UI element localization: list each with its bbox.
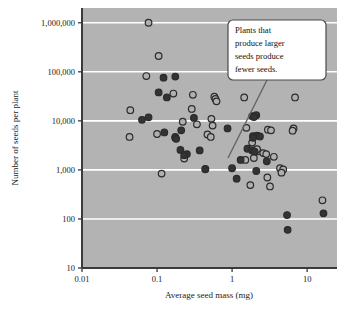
chart-figure: 101001,00010,000100,0001,000,000 0.010.1… bbox=[0, 0, 348, 311]
data-point-filled-markers-25 bbox=[251, 148, 258, 155]
data-point-filled-markers-5 bbox=[145, 114, 152, 121]
data-point-filled-markers-26 bbox=[237, 157, 244, 164]
y-axis-title: Number of seeds per plant bbox=[10, 90, 20, 185]
data-point-filled-markers-6 bbox=[191, 115, 198, 122]
data-point-open-markers-15 bbox=[179, 118, 186, 125]
data-point-filled-markers-2 bbox=[155, 89, 162, 96]
data-point-open-markers-40 bbox=[247, 182, 254, 189]
data-point-open-markers-41 bbox=[267, 183, 274, 190]
y-tick-label-100: 100 bbox=[62, 214, 75, 224]
data-point-open-markers-1 bbox=[155, 53, 162, 60]
data-point-filled-markers-4 bbox=[139, 117, 146, 124]
data-point-open-markers-7 bbox=[213, 98, 220, 105]
data-point-open-markers-9 bbox=[292, 94, 299, 101]
data-point-open-markers-24 bbox=[207, 134, 214, 141]
data-point-filled-markers-34 bbox=[320, 210, 327, 217]
data-point-open-markers-2 bbox=[143, 73, 150, 80]
data-point-filled-markers-29 bbox=[229, 165, 236, 172]
callout-line-3: seeds produce bbox=[235, 51, 284, 61]
data-point-open-markers-3 bbox=[170, 90, 177, 97]
data-point-open-markers-8 bbox=[241, 94, 248, 101]
data-point-filled-markers-0 bbox=[160, 74, 167, 81]
y-tick-label-10,000: 10,000 bbox=[52, 116, 75, 126]
y-tick-label-1,000: 1,000 bbox=[56, 165, 75, 175]
data-point-open-markers-38 bbox=[278, 169, 285, 176]
y-tick-label-100,000: 100,000 bbox=[47, 67, 75, 77]
callout-line-4: fewer seeds. bbox=[235, 64, 277, 74]
data-point-filled-markers-12 bbox=[224, 125, 231, 132]
data-point-open-markers-19 bbox=[268, 127, 275, 134]
data-point-filled-markers-10 bbox=[161, 129, 168, 136]
data-point-open-markers-13 bbox=[194, 121, 201, 128]
y-tick-label-1,000,000: 1,000,000 bbox=[41, 18, 75, 28]
y-tick-label-10: 10 bbox=[67, 263, 76, 273]
data-point-filled-markers-3 bbox=[164, 94, 171, 101]
data-point-filled-markers-30 bbox=[253, 168, 260, 175]
x-tick-label-10: 10 bbox=[303, 274, 312, 284]
callout-line-1: Plants that bbox=[235, 25, 272, 35]
data-point-filled-markers-9 bbox=[251, 114, 258, 121]
callout-line-2: produce larger bbox=[235, 38, 285, 48]
data-point-filled-markers-22 bbox=[196, 147, 203, 154]
x-tick-label-0.01: 0.01 bbox=[75, 274, 90, 284]
data-point-filled-markers-17 bbox=[257, 133, 264, 140]
data-point-open-markers-29 bbox=[271, 154, 278, 161]
data-point-open-markers-32 bbox=[251, 155, 258, 162]
scatter-plot-svg: 101001,00010,000100,0001,000,000 0.010.1… bbox=[0, 0, 348, 311]
data-point-filled-markers-18 bbox=[250, 135, 257, 142]
data-point-filled-markers-11 bbox=[178, 127, 185, 134]
data-point-open-markers-10 bbox=[127, 107, 134, 114]
data-point-open-markers-28 bbox=[263, 151, 270, 158]
data-point-open-markers-21 bbox=[154, 131, 161, 138]
data-point-filled-markers-1 bbox=[172, 73, 179, 80]
data-point-open-markers-20 bbox=[126, 134, 133, 141]
data-point-open-markers-0 bbox=[145, 19, 152, 26]
data-point-open-markers-12 bbox=[208, 116, 215, 123]
data-point-filled-markers-33 bbox=[284, 227, 291, 234]
data-point-filled-markers-31 bbox=[233, 175, 240, 182]
data-point-open-markers-14 bbox=[209, 122, 216, 129]
callout-box: Plants that produce larger seeds produce… bbox=[228, 20, 326, 80]
data-point-open-markers-43 bbox=[289, 127, 296, 134]
data-point-filled-markers-14 bbox=[173, 136, 180, 143]
data-point-open-markers-34 bbox=[158, 170, 165, 177]
data-point-filled-markers-21 bbox=[181, 152, 188, 159]
data-point-open-markers-4 bbox=[190, 91, 197, 98]
x-tick-label-1: 1 bbox=[230, 274, 234, 284]
data-point-filled-markers-28 bbox=[202, 166, 209, 173]
x-tick-label-0.1: 0.1 bbox=[152, 274, 163, 284]
data-point-open-markers-39 bbox=[264, 174, 271, 181]
x-axis-title: Average seed mass (mg) bbox=[165, 290, 253, 300]
data-point-open-markers-42 bbox=[319, 197, 326, 204]
data-point-filled-markers-27 bbox=[263, 158, 270, 165]
data-point-filled-markers-32 bbox=[284, 212, 291, 219]
data-point-open-markers-11 bbox=[188, 106, 195, 113]
